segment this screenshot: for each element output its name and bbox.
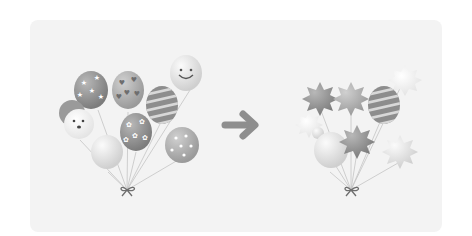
star-burst-balloon-4 xyxy=(382,135,418,169)
star-burst-balloon-1 xyxy=(302,82,338,116)
flower-pattern-balloon: ✿✿✿✿✿ xyxy=(120,113,152,151)
svg-text:★: ★ xyxy=(98,93,104,101)
left-bouquet: ★★★★★ ♥♥♥♥♥ xyxy=(59,55,202,196)
smiley-balloon xyxy=(170,55,202,91)
svg-text:♥: ♥ xyxy=(124,89,130,97)
svg-text:★: ★ xyxy=(89,87,95,95)
svg-text:♥: ♥ xyxy=(119,79,125,87)
svg-text:✿: ✿ xyxy=(142,134,148,142)
svg-text:♥: ♥ xyxy=(131,76,137,84)
svg-text:✿: ✿ xyxy=(126,121,132,129)
polka-dot-balloon xyxy=(165,127,199,163)
plain-light-balloon xyxy=(91,135,123,169)
bear-silhouette-balloon xyxy=(312,127,348,168)
striped-balloon xyxy=(362,86,406,128)
heart-pattern-balloon: ♥♥♥♥♥ xyxy=(112,71,144,109)
svg-text:♥: ♥ xyxy=(116,93,122,101)
svg-text:✿: ✿ xyxy=(139,118,145,126)
svg-text:★: ★ xyxy=(94,74,100,82)
svg-text:♥: ♥ xyxy=(134,90,140,98)
svg-text:★: ★ xyxy=(77,91,83,99)
right-bouquet xyxy=(295,65,422,196)
svg-text:✿: ✿ xyxy=(132,132,138,140)
star-burst-balloon-2 xyxy=(333,82,369,116)
ribbon-bow-icon xyxy=(121,187,135,196)
arrow-right-icon xyxy=(225,114,255,136)
svg-text:★: ★ xyxy=(81,79,87,87)
svg-text:✿: ✿ xyxy=(123,136,129,144)
ribbon-bow-icon xyxy=(345,187,359,196)
balloon-scene: ★★★★★ ♥♥♥♥♥ xyxy=(0,0,472,236)
